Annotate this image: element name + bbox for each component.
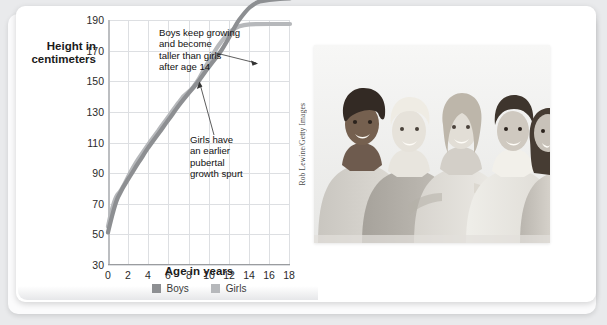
x-axis-title-text: Age in years [165,265,233,277]
legend-label-boys: Boys [167,283,189,294]
legend-swatch-girls-icon [211,284,220,293]
x-axis-title: Age in years [108,265,290,277]
y-tick-label: 130 [86,106,104,118]
y-tick-label: 30 [92,259,104,271]
photo-illustration [314,45,550,243]
y-axis-title: Height in centimeters [18,40,96,66]
annotation-boys-line-2: and become [159,38,264,49]
y-tick-label: 190 [86,14,104,26]
photo-block: Rob Lewine/Getty Images [300,45,550,260]
y-tick-label: 110 [87,137,104,149]
annotation-boys-line-3: taller than girls [159,50,264,61]
legend-item-boys: Boys [152,283,189,294]
y-tick-label: 70 [92,198,104,210]
legend-swatch-boys-icon [152,284,161,293]
annotation-girls-line-1: Girls have [190,134,270,145]
figure-page: Height in centimeters [0,0,607,325]
y-tick-label: 90 [92,167,104,179]
teenagers-photo [314,45,550,243]
photo-credit: Rob Lewine/Getty Images [298,103,307,185]
legend-item-girls: Girls [211,283,247,294]
annotation-girls: Girls have an earlier pubertal growth sp… [190,134,270,180]
chart-legend: Boys Girls [108,283,290,294]
growth-chart: Height in centimeters [0,0,320,325]
y-tick-label: 170 [86,45,104,57]
annotation-girls-line-4: growth spurt [190,168,270,179]
annotation-girls-line-2: an earlier [190,145,270,156]
annotation-boys: Boys keep growing and become taller than… [159,27,264,73]
y-tick-label: 150 [86,75,104,87]
annotation-boys-line-1: Boys keep growing [159,27,264,38]
legend-label-girls: Girls [226,283,247,294]
y-tick-label: 50 [92,228,104,240]
annotation-boys-line-4: after age 14 [159,61,264,72]
annotation-girls-line-3: pubertal [190,157,270,168]
